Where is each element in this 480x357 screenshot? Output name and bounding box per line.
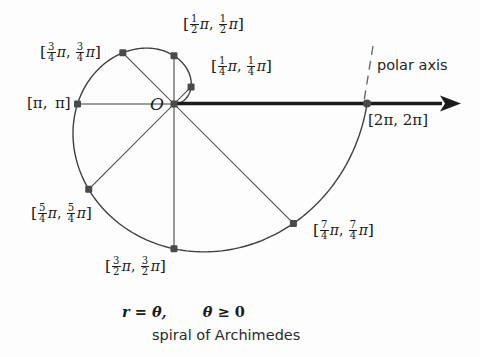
equation-theta-2: θ: [203, 303, 213, 320]
fraction-denominator: 2: [141, 266, 150, 277]
bracket-close: ]: [266, 56, 272, 75]
fraction-numerator: 7: [320, 220, 329, 230]
pi-symbol: π: [227, 58, 237, 74]
label-comma: ,: [57, 205, 61, 221]
bracket-open: [: [105, 256, 111, 275]
equation-ge: ≥: [218, 303, 230, 320]
equation-r: r: [122, 303, 130, 320]
marker-half-pi: [171, 52, 178, 59]
radial-spokes-group: [78, 53, 294, 249]
two-pi-dashed-line: [364, 46, 373, 101]
bracket-close: ]: [368, 220, 374, 239]
polar-axis-label: polar axis: [377, 58, 448, 73]
pi-symbol: π: [76, 205, 86, 221]
fraction-numerator: 5: [38, 203, 47, 213]
fraction-numerator: 1: [218, 56, 227, 66]
fraction-denominator: 4: [247, 66, 256, 77]
label-comma: ,: [131, 258, 135, 274]
fraction-seven-quarter: 74: [320, 220, 329, 242]
pi-symbol: π: [85, 44, 95, 60]
label-comma: ,: [237, 58, 241, 74]
fraction-numerator: 5: [67, 203, 76, 213]
fraction-three-half: 32: [112, 256, 121, 278]
bracket-open: [: [211, 56, 217, 75]
fraction-denominator: 2: [219, 24, 228, 35]
fraction-five-quarter-2: 54: [67, 203, 76, 225]
pi-symbol: π: [56, 44, 66, 60]
label-three-half-pi: [32π, 32π]: [105, 256, 166, 278]
pi-symbol: π: [228, 16, 238, 32]
bracket-close: ]: [95, 42, 101, 61]
fraction-quarter-2: 14: [247, 56, 256, 78]
label-comma: ,: [339, 222, 343, 238]
fraction-denominator: 4: [218, 66, 227, 77]
fraction-three-half-2: 32: [141, 256, 150, 278]
fraction-denominator: 4: [320, 230, 329, 241]
pi-symbol: π: [47, 205, 57, 221]
dashed-segment: [364, 46, 373, 101]
fraction-denominator: 2: [190, 24, 199, 35]
bracket-open: [: [31, 203, 37, 222]
pi-symbol: π: [199, 16, 209, 32]
fraction-three-quarter-2: 34: [76, 42, 85, 64]
equation-line: r = θ, θ ≥ 0: [122, 303, 245, 320]
bracket-open: [: [40, 42, 46, 61]
label-quarter-pi: [14π, 14π]: [211, 56, 272, 78]
fraction-numerator: 3: [112, 256, 121, 266]
pi-symbol: π: [150, 258, 160, 274]
bracket-open: [: [313, 220, 319, 239]
fraction-denominator: 4: [38, 213, 47, 224]
label-three-quarter-pi: [34π, 34π]: [40, 42, 101, 64]
equation-theta: θ,: [152, 303, 167, 320]
polar-spiral-figure: O [12π, 12π] [14π, 14π] [34π, 34π] [π, π…: [0, 0, 480, 357]
fraction-numerator: 1: [247, 56, 256, 66]
bracket-close: ]: [86, 203, 92, 222]
marker-origin: [171, 101, 178, 108]
fraction-denominator: 4: [47, 52, 56, 63]
fraction-numerator: 3: [141, 256, 150, 266]
polar-axis-group: [174, 96, 461, 112]
figure-caption: spiral of Archimedes: [152, 327, 300, 343]
spoke-five-quarter-pi: [89, 104, 174, 189]
fraction-denominator: 4: [67, 213, 76, 224]
marker-quarter-pi: [188, 83, 195, 90]
marker-three-quarter-pi: [119, 49, 126, 56]
fraction-five-quarter: 54: [38, 203, 47, 225]
fraction-numerator: 1: [190, 14, 199, 24]
equation-zero: 0: [235, 303, 245, 320]
pi-symbol: π: [121, 258, 131, 274]
label-seven-quarter-pi: [74π, 74π]: [313, 220, 374, 242]
label-half-pi: [12π, 12π]: [183, 14, 244, 36]
fraction-seven-quarter-2: 74: [349, 220, 358, 242]
fraction-numerator: 7: [349, 220, 358, 230]
fraction-three-quarter: 34: [47, 42, 56, 64]
equation-equals: =: [135, 303, 147, 320]
marker-five-quarter-pi: [85, 186, 92, 193]
bracket-open: [: [183, 14, 189, 33]
fraction-denominator: 4: [76, 52, 85, 63]
pi-symbol: π: [256, 58, 266, 74]
origin-label: O: [150, 94, 164, 114]
bracket-close: ]: [160, 256, 166, 275]
polar-axis-arrowhead: [440, 96, 461, 112]
spoke-seven-quarter-pi: [174, 104, 293, 223]
fraction-half: 12: [190, 14, 199, 36]
marker-two-pi: [363, 99, 371, 107]
fraction-numerator: 3: [76, 42, 85, 52]
label-two-pi: [2π, 2π]: [368, 113, 428, 128]
fraction-half-2: 12: [219, 14, 228, 36]
fraction-quarter: 14: [218, 56, 227, 78]
fraction-denominator: 4: [349, 230, 358, 241]
marker-pi: [74, 101, 81, 108]
pi-symbol: π: [329, 222, 339, 238]
fraction-denominator: 2: [112, 266, 121, 277]
label-comma: ,: [209, 16, 213, 32]
label-comma: ,: [66, 44, 70, 60]
label-pi: [π, π]: [27, 96, 71, 111]
bracket-close: ]: [238, 14, 244, 33]
label-five-quarter-pi: [54π, 54π]: [31, 203, 92, 225]
pi-symbol: π: [358, 222, 368, 238]
marker-seven-quarter-pi: [290, 220, 297, 227]
fraction-numerator: 1: [219, 14, 228, 24]
marker-three-half-pi: [171, 245, 178, 252]
